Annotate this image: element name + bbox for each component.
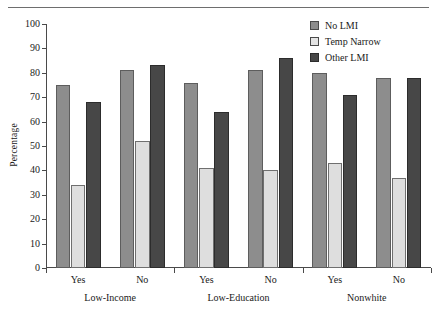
y-tick-label: 100: [12, 19, 40, 29]
legend-label: No LMI: [325, 21, 358, 31]
x-axis-group-label: Low-Education: [169, 292, 309, 303]
bar: [150, 65, 165, 268]
y-tick-label: 90: [12, 43, 40, 53]
bar: [392, 178, 407, 268]
legend-item[interactable]: No LMI: [310, 18, 430, 33]
legend-swatch-icon: [310, 53, 319, 62]
bar-chart-figure: Percentage 0102030405060708090100 YesNoY…: [0, 0, 437, 311]
bar: [199, 168, 214, 268]
bar: [407, 78, 422, 268]
x-tick-label: No: [241, 274, 301, 285]
bar: [56, 85, 71, 268]
legend-label: Temp Narrow: [325, 37, 381, 47]
bar: [135, 141, 150, 268]
bar: [184, 83, 199, 268]
x-tick-label: No: [112, 274, 172, 285]
y-tick-label: 80: [12, 68, 40, 78]
bar: [120, 70, 135, 268]
bar: [263, 170, 278, 268]
x-group-tick-mark: [303, 268, 304, 273]
top-divider-rule: [8, 7, 429, 8]
bar: [328, 163, 343, 268]
x-tick-label: Yes: [176, 274, 236, 285]
bar: [86, 102, 101, 268]
legend-swatch-icon: [310, 21, 319, 30]
x-group-tick-mark: [46, 268, 47, 273]
legend-label: Other LMI: [325, 53, 369, 63]
x-group-tick-mark: [431, 268, 432, 273]
legend-item[interactable]: Other LMI: [310, 50, 430, 65]
y-tick-label: 50: [12, 141, 40, 151]
bar: [376, 78, 391, 268]
y-tick-label: 40: [12, 165, 40, 175]
x-axis-group-label: Low-Income: [40, 292, 180, 303]
x-tick-label: No: [369, 274, 429, 285]
chart-legend: No LMITemp NarrowOther LMI: [310, 18, 430, 66]
x-axis-group-label: Nonwhite: [297, 292, 437, 303]
x-group-tick-mark: [174, 268, 175, 273]
bar: [248, 70, 263, 268]
x-tick-label: Yes: [305, 274, 365, 285]
bar: [279, 58, 294, 268]
legend-item[interactable]: Temp Narrow: [310, 34, 430, 49]
x-tick-label: Yes: [48, 274, 108, 285]
bar: [343, 95, 358, 268]
y-tick-label: 0: [12, 263, 40, 273]
y-tick-label: 20: [12, 214, 40, 224]
y-tick-label: 30: [12, 190, 40, 200]
y-tick-label: 10: [12, 239, 40, 249]
y-tick-label: 70: [12, 92, 40, 102]
y-tick-label: 60: [12, 117, 40, 127]
bar: [312, 73, 327, 268]
bar: [71, 185, 86, 268]
bar: [214, 112, 229, 268]
legend-swatch-icon: [310, 37, 319, 46]
